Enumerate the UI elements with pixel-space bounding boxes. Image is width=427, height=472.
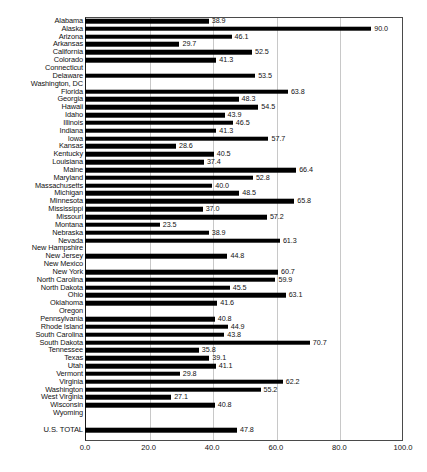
- bar-value-label: 37.4: [207, 158, 221, 166]
- bar-value-label: 29.7: [182, 41, 196, 49]
- bar-value-label: 40.8: [218, 315, 232, 323]
- bar: [85, 332, 224, 337]
- bar-value-label: 62.2: [286, 378, 300, 386]
- x-tick-label: 100.0: [393, 443, 412, 452]
- bar-value-label: 41.1: [219, 362, 233, 370]
- bar: [85, 340, 310, 345]
- x-tick-label: 80.0: [332, 443, 347, 452]
- bar-value-label: 37.0: [206, 205, 220, 213]
- bar-value-label: 40.0: [215, 182, 229, 190]
- bar: [85, 207, 203, 212]
- bar: [85, 387, 261, 392]
- bar: [85, 160, 204, 165]
- bar-value-label: 45.5: [233, 284, 247, 292]
- bar-value-label: 55.2: [264, 386, 278, 394]
- bar: [85, 74, 255, 79]
- bar: [85, 50, 252, 55]
- bar-value-label: 38.9: [212, 229, 226, 237]
- chart-row: Texas39.1: [0, 354, 427, 362]
- bar-value-label: 63.1: [289, 292, 303, 300]
- bar: [85, 379, 283, 384]
- bar: [85, 121, 233, 126]
- chart-row: Indiana41.3: [0, 127, 427, 135]
- bar: [85, 301, 217, 306]
- chart-row: Wyoming: [0, 409, 427, 417]
- bar-value-label: 27.1: [174, 394, 188, 402]
- bar: [85, 144, 176, 149]
- bar: [85, 105, 258, 110]
- bar: [85, 395, 171, 400]
- bar-value-label: 52.5: [255, 49, 269, 57]
- bar: [85, 19, 209, 24]
- bar: [85, 277, 275, 282]
- bar: [85, 128, 216, 133]
- bar-value-label: 43.8: [227, 331, 241, 339]
- bar: [85, 183, 212, 188]
- x-axis: 0.020.040.060.080.0100.0: [85, 443, 403, 457]
- x-tick-label: 40.0: [205, 443, 220, 452]
- bar-value-label: 59.9: [278, 276, 292, 284]
- bar-value-label: 46.5: [236, 119, 250, 127]
- row-label: Wyoming: [0, 409, 83, 417]
- bar-value-label: 47.8: [240, 426, 254, 434]
- bar: [85, 325, 228, 330]
- bar: [85, 285, 230, 290]
- bar-value-label: 23.5: [163, 221, 177, 229]
- bar: [85, 356, 209, 361]
- bar: [85, 317, 215, 322]
- x-tick-label: 0.0: [80, 443, 91, 452]
- bar: [85, 428, 237, 433]
- bar-value-label: 44.8: [230, 252, 244, 260]
- bar-value-label: 48.5: [242, 190, 256, 198]
- bar-value-label: 53.5: [258, 72, 272, 80]
- bar: [85, 372, 180, 377]
- bar-value-label: 29.8: [183, 370, 197, 378]
- bar-value-label: 38.9: [212, 17, 226, 25]
- bar-value-label: 65.8: [297, 198, 311, 206]
- bar: [85, 223, 160, 228]
- bar: [85, 199, 294, 204]
- bar-value-label: 61.3: [283, 237, 297, 245]
- chart-row: North Dakota45.5: [0, 284, 427, 292]
- bar-value-label: 46.1: [235, 33, 249, 41]
- bar: [85, 89, 288, 94]
- bar: [85, 42, 179, 47]
- bar: [85, 136, 268, 141]
- bar-value-label: 40.8: [218, 401, 232, 409]
- bar-value-label: 41.3: [219, 56, 233, 64]
- bar-value-label: 41.3: [219, 127, 233, 135]
- bar: [85, 34, 232, 39]
- bar: [85, 176, 253, 181]
- bar-value-label: 41.6: [220, 300, 234, 308]
- x-tick-label: 60.0: [268, 443, 283, 452]
- bar-value-label: 66.4: [299, 166, 313, 174]
- bar: [85, 293, 286, 298]
- bar: [85, 97, 239, 102]
- bar-value-label: 52.8: [256, 174, 270, 182]
- bar: [85, 58, 216, 63]
- bar: [85, 191, 239, 196]
- bar: [85, 403, 215, 408]
- chart-row: U.S. TOTAL47.8: [0, 426, 427, 434]
- bar-value-label: 48.3: [242, 96, 256, 104]
- row-label: U.S. TOTAL: [0, 426, 83, 434]
- bar-value-label: 54.5: [261, 103, 275, 111]
- bar-chart: Alabama38.9Alaska90.0Arizona46.1Arkansas…: [0, 0, 427, 472]
- bar: [85, 230, 209, 235]
- bar: [85, 238, 280, 243]
- bar-value-label: 90.0: [374, 25, 388, 33]
- bar: [85, 215, 267, 220]
- bar-value-label: 57.7: [271, 135, 285, 143]
- bar: [85, 152, 214, 157]
- x-tick-label: 20.0: [141, 443, 156, 452]
- bar: [85, 270, 278, 275]
- chart-rows: Alabama38.9Alaska90.0Arizona46.1Arkansas…: [0, 17, 427, 434]
- bar: [85, 364, 216, 369]
- bar: [85, 168, 296, 173]
- bar: [85, 254, 227, 259]
- bar-value-label: 63.8: [291, 88, 305, 96]
- bar-value-label: 28.6: [179, 143, 193, 151]
- bar: [85, 348, 199, 353]
- bar-value-label: 57.2: [270, 213, 284, 221]
- bar-value-label: 70.7: [313, 339, 327, 347]
